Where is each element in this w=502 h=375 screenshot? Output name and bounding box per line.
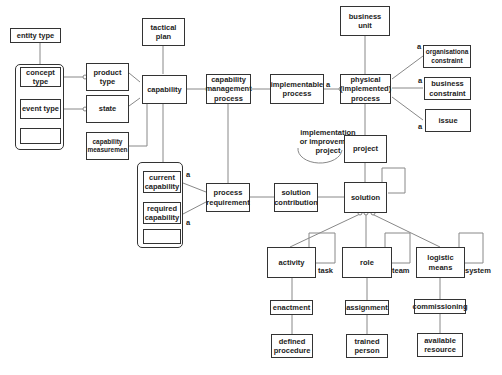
node-entity-type[interactable]: entity type [10,28,61,43]
node-business-unit[interactable]: business unit [340,6,390,36]
multiplicity-a: a [418,122,422,131]
multiplicity-a: a [418,76,422,85]
node-concept-type[interactable]: concept type [20,67,61,87]
node-capability[interactable]: capability [142,75,187,104]
self-relation-team: team [392,266,410,275]
node-label: required capability [144,204,180,223]
node-project[interactable]: project [344,135,387,163]
node-available-resource[interactable]: available resource [417,333,463,357]
diagram-canvas: entity type concept type event type prod… [0,0,502,375]
node-label: event type [22,104,59,113]
node-product-type[interactable]: product type [86,63,129,91]
node-label: defined procedure [272,337,312,356]
node-label: current capability [144,173,180,192]
node-label: process requirement [206,188,249,207]
node-label: solution contribution [274,188,318,207]
node-label: capability [147,85,182,94]
node-label: available resource [418,336,462,355]
node-physical-process[interactable]: physical (implemented) process [340,74,391,104]
node-tactical-plan[interactable]: tactical plan [142,18,185,46]
node-enactment[interactable]: enactment [270,300,313,315]
node-defined-procedure[interactable]: defined procedure [271,334,313,358]
node-required-capability[interactable]: required capability [143,202,181,224]
self-relation-task: task [318,266,333,275]
node-capability-measurement[interactable]: capability measuremen [86,132,129,160]
node-label: logistic means [417,253,464,272]
node-capability-management-process[interactable]: capability management process [206,74,251,104]
node-label: activity [279,258,305,267]
node-label: project [353,144,378,153]
node-logistic-means[interactable]: logistic means [416,247,465,278]
multiplicity-a: a [417,42,421,51]
node-label: business constraint [425,79,470,98]
node-solution[interactable]: solution [344,182,387,213]
node-label: issue [438,116,457,125]
node-label: organisationa constraint [424,48,470,64]
node-event-type[interactable]: event type [20,99,61,119]
node-solution-contribution[interactable]: solution contribution [274,183,318,212]
node-commissioning[interactable]: commissioning [414,299,466,314]
node-business-constraint[interactable]: business constraint [424,77,471,100]
node-label: entity type [17,31,55,40]
node-trained-person[interactable]: trained person [346,334,388,358]
node-organisational-constraint[interactable]: organisationa constraint [423,45,471,68]
node-process-requirement[interactable]: process requirement [206,183,250,212]
node-label: tactical plan [143,23,184,42]
node-state[interactable]: state [86,95,129,123]
node-label: role [360,258,374,267]
node-empty-2[interactable] [143,229,181,244]
node-label: capability measuremen [87,138,128,154]
node-current-capability[interactable]: current capability [143,171,181,193]
node-implementable-process[interactable]: implementable process [270,74,324,104]
multiplicity-a: a [326,80,330,89]
node-assignment[interactable]: assignment [345,300,389,315]
node-label: capability management process [205,75,251,103]
node-label: trained person [347,337,387,356]
node-label: implementable process [271,80,324,99]
node-label: assignment [346,303,388,312]
node-label: physical (implemented) process [340,75,391,103]
node-activity[interactable]: activity [267,247,316,278]
node-empty-1[interactable] [20,128,61,144]
multiplicity-a: a [186,170,190,179]
node-label: state [99,104,117,113]
node-label: enactment [273,303,311,312]
node-label: solution [351,193,380,202]
node-role[interactable]: role [342,247,392,278]
self-relation-system: system [465,266,491,275]
node-label: concept type [21,68,60,87]
node-label: product type [87,68,128,87]
multiplicity-a: a [186,218,190,227]
node-issue[interactable]: issue [425,109,471,132]
node-label: business unit [341,12,389,31]
node-label: commissioning [413,302,468,311]
